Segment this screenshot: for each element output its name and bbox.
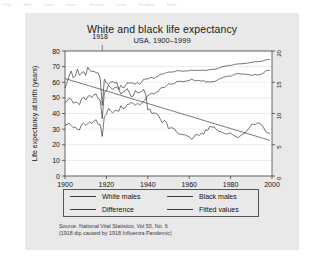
tick-label-y-left: 50	[52, 94, 60, 101]
screenshot-root: File Edit View Insert Format Tools Windo…	[0, 0, 321, 261]
tick-label-y-left: 80	[52, 48, 60, 55]
legend-item-fitted-values[interactable]: Fitted values	[161, 206, 258, 213]
menu-item-help[interactable]: Help	[167, 0, 176, 9]
menu-item-edit[interactable]: Edit	[24, 0, 32, 9]
tick-label-y-right: 20	[276, 49, 282, 56]
menu-item-file[interactable]: File	[4, 0, 12, 9]
menu-bar[interactable]: File Edit View Insert Format Tools Windo…	[0, 0, 321, 9]
tick-label-y-right: 0	[276, 176, 282, 180]
legend-item-black-males[interactable]: Black males	[161, 193, 258, 200]
tick-label-y-left: 10	[52, 157, 60, 164]
legend-label-black-males: Black males	[199, 193, 237, 200]
tick-label-y-right: 10	[276, 112, 282, 119]
tick-label-x: 1920	[99, 181, 115, 188]
menu-item-insert[interactable]: Insert	[66, 0, 78, 9]
tick-label-y-right: 5	[276, 145, 282, 149]
legend-label-white-males: White males	[102, 193, 141, 200]
tick-label-y-left: 70	[52, 63, 60, 70]
legend-label-difference: Difference	[102, 206, 134, 213]
source-note: Source: National Vital Statistics, Vol 5…	[59, 223, 289, 237]
legend-item-white-males[interactable]: White males	[64, 193, 161, 200]
legend-item-difference[interactable]: Difference	[64, 206, 161, 213]
axis-label-y: Life expectancy at birth (years)	[31, 66, 39, 162]
chart-legend: White males Black males Difference Fitte…	[63, 189, 259, 217]
tick-label-x: 1900	[57, 181, 73, 188]
legend-label-fitted-values: Fitted values	[199, 206, 239, 213]
chart-figure: White and black life expectancy USA, 190…	[25, 13, 299, 250]
legend-swatch-line-icon	[167, 209, 193, 210]
tick-label-x: 2000	[264, 181, 280, 188]
tick-label-y-left: 0	[56, 173, 60, 180]
annotation-1918: 1918	[92, 33, 108, 40]
legend-swatch-line-icon	[70, 196, 96, 197]
menu-item-format[interactable]: Format	[89, 0, 103, 9]
source-line-1: Source: National Vital Statistics, Vol 5…	[59, 223, 289, 230]
tick-label-y-left: 60	[52, 79, 60, 86]
tick-label-x: 1960	[181, 181, 197, 188]
legend-swatch-line-icon	[167, 196, 193, 197]
tick-label-y-left: 20	[52, 141, 60, 148]
menu-item-view[interactable]: View	[44, 0, 54, 9]
tick-label-x: 1940	[140, 181, 156, 188]
menu-item-window[interactable]: Window	[139, 0, 155, 9]
tick-label-y-left: 30	[52, 126, 60, 133]
menu-item-tools[interactable]: Tools	[116, 0, 127, 9]
tick-label-y-right: 15	[276, 81, 282, 88]
tick-label-y-left: 40	[52, 110, 60, 117]
tick-label-x: 1980	[223, 181, 239, 188]
source-line-2: (1918 dip caused by 1918 Influenza Pande…	[59, 230, 289, 237]
legend-swatch-line-icon	[70, 209, 96, 210]
